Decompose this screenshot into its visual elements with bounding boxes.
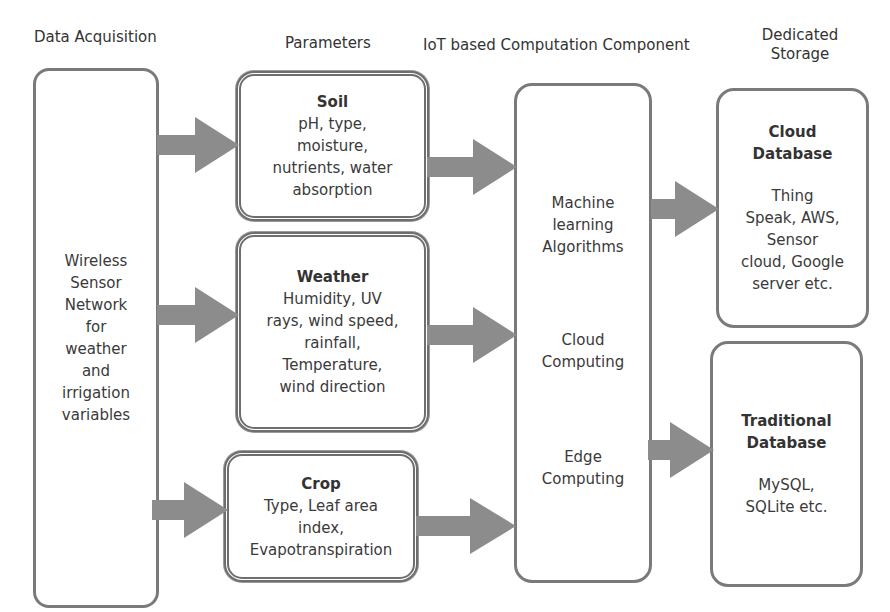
acq-line: for — [86, 316, 107, 338]
arrow-weather-to-computation-icon — [427, 307, 517, 363]
comp-line: learning — [517, 214, 649, 236]
header-data-acquisition: Data Acquisition — [34, 28, 157, 47]
weather-line: rays, wind speed, — [267, 310, 399, 332]
header-dedicated-storage: Dedicated Storage — [755, 26, 845, 64]
arrow-acq-to-crop-icon — [152, 482, 228, 538]
cloud-db-title-line: Cloud — [769, 121, 817, 143]
acq-line: variables — [62, 404, 130, 426]
computation-item-edge: Edge Computing — [517, 446, 649, 490]
soil-line: pH, type, — [298, 113, 367, 135]
header-storage-line1: Dedicated — [755, 26, 845, 45]
comp-line: Algorithms — [517, 236, 649, 258]
acq-line: weather — [65, 338, 126, 360]
comp-line: Machine — [517, 192, 649, 214]
soil-title: Soil — [317, 91, 348, 113]
weather-parameter-box: Weather Humidity, UV rays, wind speed, r… — [236, 232, 429, 432]
weather-line: Humidity, UV — [283, 288, 382, 310]
acq-line: irrigation — [62, 382, 130, 404]
header-computation: IoT based Computation Component — [423, 36, 690, 55]
arrow-soil-to-computation-icon — [427, 139, 517, 195]
comp-line: Computing — [517, 468, 649, 490]
soil-line: absorption — [292, 179, 372, 201]
traditional-database-box: Traditional Database MySQL, SQLite etc. — [710, 341, 863, 587]
arrow-computation-to-traditional-db-icon — [648, 422, 714, 478]
soil-line: moisture, — [297, 135, 368, 157]
trad-db-line: SQLite etc. — [746, 496, 828, 518]
computation-item-ml: Machine learning Algorithms — [517, 192, 649, 258]
wireless-sensor-network-box: Wireless Sensor Network for weather and … — [33, 68, 159, 608]
cloud-db-line: cloud, Google — [741, 251, 844, 273]
weather-line: wind direction — [280, 376, 386, 398]
acq-line: Wireless — [65, 250, 128, 272]
cloud-database-box: Cloud Database Thing Speak, AWS, Sensor … — [716, 88, 869, 328]
trad-db-title-line: Traditional — [741, 410, 832, 432]
trad-db-title-line: Database — [747, 432, 827, 454]
arrow-computation-to-cloud-db-icon — [651, 181, 719, 237]
acq-line: Network — [65, 294, 128, 316]
arrow-crop-to-computation-icon — [416, 498, 516, 554]
crop-parameter-box: Crop Type, Leaf area index, Evapotranspi… — [224, 451, 418, 582]
comp-line: Computing — [517, 351, 649, 373]
header-parameters: Parameters — [285, 34, 371, 53]
header-storage-line2: Storage — [755, 45, 845, 64]
comp-line: Cloud — [517, 329, 649, 351]
acq-line: and — [82, 360, 110, 382]
crop-title: Crop — [301, 473, 340, 495]
crop-line: Type, Leaf area — [264, 495, 378, 517]
soil-line: nutrients, water — [273, 157, 393, 179]
computation-item-cloud: Cloud Computing — [517, 329, 649, 373]
comp-line: Edge — [517, 446, 649, 468]
crop-line: index, — [298, 517, 344, 539]
cloud-db-line: Thing — [772, 185, 814, 207]
weather-title: Weather — [297, 266, 369, 288]
weather-line: rainfall, — [304, 332, 361, 354]
acq-line: Sensor — [70, 272, 121, 294]
soil-parameter-box: Soil pH, type, moisture, nutrients, wate… — [236, 71, 429, 221]
cloud-db-line: Sensor — [767, 229, 818, 251]
cloud-db-title-line: Database — [753, 143, 833, 165]
cloud-db-line: server etc. — [752, 273, 832, 295]
trad-db-line: MySQL, — [758, 474, 814, 496]
weather-line: Temperature, — [283, 354, 383, 376]
crop-line: Evapotranspiration — [250, 539, 393, 561]
cloud-db-line: Speak, AWS, — [745, 207, 839, 229]
computation-box: Machine learning Algorithms Cloud Comput… — [514, 83, 652, 583]
arrow-acq-to-weather-icon — [157, 287, 239, 343]
arrow-acq-to-soil-icon — [157, 117, 239, 173]
